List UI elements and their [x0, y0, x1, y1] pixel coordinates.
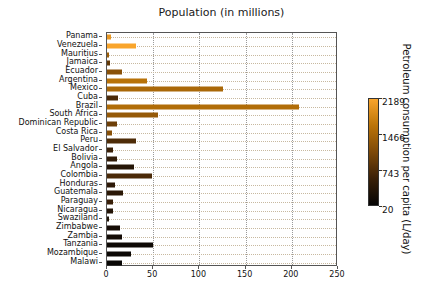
- bar: [107, 182, 115, 187]
- y-tick-mark: [99, 236, 102, 237]
- y-tick-mark: [99, 166, 102, 167]
- bar: [107, 251, 131, 256]
- bar: [107, 139, 136, 144]
- y-tick-mark: [99, 36, 102, 37]
- y-tick-mark: [99, 140, 102, 141]
- bar: [107, 147, 113, 152]
- x-axis-tick-labels: 050100150200250: [106, 268, 337, 286]
- x-tick-label: 250: [329, 270, 344, 279]
- bar: [107, 104, 299, 109]
- y-tick-mark: [99, 253, 102, 254]
- bar-row: [107, 68, 336, 77]
- bar: [107, 234, 122, 239]
- y-tick-mark: [99, 149, 102, 150]
- y-tick-mark: [99, 80, 102, 81]
- bar-row: [107, 154, 336, 163]
- bar: [107, 87, 223, 92]
- colorbar-gradient: [368, 98, 379, 206]
- bar: [107, 165, 134, 170]
- x-tick-mark: [337, 266, 338, 269]
- x-tick-label: 150: [237, 270, 252, 279]
- y-tick-mark: [99, 218, 102, 219]
- x-tick-mark: [291, 266, 292, 269]
- bar-row: [107, 111, 336, 120]
- bar: [107, 217, 109, 222]
- bar-row: [107, 76, 336, 85]
- bar: [107, 121, 117, 126]
- y-tick-mark: [99, 158, 102, 159]
- y-tick-mark: [99, 262, 102, 263]
- page-title: Population (in millions): [106, 6, 337, 19]
- bar: [107, 43, 136, 48]
- y-tick-mark: [99, 227, 102, 228]
- y-tick-label: Malawi: [70, 258, 98, 266]
- y-tick-mark: [99, 210, 102, 211]
- bar-row: [107, 180, 336, 189]
- bar: [107, 78, 147, 83]
- bar-row: [107, 258, 336, 267]
- x-tick-mark: [198, 266, 199, 269]
- bar: [107, 191, 123, 196]
- bar-row: [107, 50, 336, 59]
- bar-row: [107, 232, 336, 241]
- bar-row: [107, 42, 336, 51]
- colorbar-tick-label: 743: [382, 169, 399, 179]
- x-tick-mark: [106, 266, 107, 269]
- bar: [107, 69, 122, 74]
- y-tick-mark: [99, 106, 102, 107]
- bar-row: [107, 33, 336, 42]
- y-tick-mark: [99, 88, 102, 89]
- bar-row: [107, 224, 336, 233]
- bar: [107, 113, 158, 118]
- colorbar: 2189146674320: [368, 98, 379, 206]
- bar: [107, 156, 117, 161]
- bar-row: [107, 241, 336, 250]
- x-tick-label: 50: [147, 270, 157, 279]
- bar-row: [107, 163, 336, 172]
- bar: [107, 95, 118, 100]
- y-tick-mark: [99, 175, 102, 176]
- bar: [107, 260, 122, 265]
- bar: [107, 52, 109, 57]
- bar-row: [107, 215, 336, 224]
- bar: [107, 225, 120, 230]
- bar-row: [107, 85, 336, 94]
- bar-row: [107, 137, 336, 146]
- x-tick-label: 200: [283, 270, 298, 279]
- y-tick-mark: [99, 71, 102, 72]
- colorbar-tick-label: 20: [382, 205, 393, 215]
- y-tick-mark: [99, 97, 102, 98]
- bar-row: [107, 128, 336, 137]
- bar-row: [107, 250, 336, 259]
- x-tick-mark: [245, 266, 246, 269]
- bar: [107, 243, 153, 248]
- x-tick-label: 0: [103, 270, 108, 279]
- y-tick-mark: [99, 184, 102, 185]
- bar-row: [107, 94, 336, 103]
- y-tick-mark: [99, 132, 102, 133]
- bar-row: [107, 172, 336, 181]
- bar-row: [107, 59, 336, 68]
- bar: [107, 173, 152, 178]
- y-tick-mark: [99, 123, 102, 124]
- bar-row: [107, 120, 336, 129]
- bar-row: [107, 102, 336, 111]
- bar-series: [107, 33, 336, 265]
- bar-row: [107, 189, 336, 198]
- x-tick-mark: [152, 266, 153, 269]
- y-tick-mark: [99, 62, 102, 63]
- y-tick-mark: [99, 45, 102, 46]
- y-tick-mark: [99, 54, 102, 55]
- bar-row: [107, 146, 336, 155]
- bar-row: [107, 206, 336, 215]
- y-tick-mark: [99, 201, 102, 202]
- y-tick-mark: [99, 244, 102, 245]
- bar: [107, 199, 113, 204]
- y-tick-mark: [99, 192, 102, 193]
- colorbar-axis-label: Petroleum consumption per capita (L/day): [401, 44, 412, 255]
- plot-area: [106, 32, 337, 266]
- y-tick-mark: [99, 114, 102, 115]
- figure-canvas: Population (in millions) PanamaVenezuela…: [0, 0, 442, 298]
- bar-row: [107, 198, 336, 207]
- bar: [107, 208, 113, 213]
